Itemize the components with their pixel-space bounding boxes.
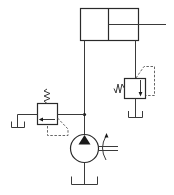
valve-body	[125, 79, 146, 99]
cylinder	[81, 9, 167, 41]
pump	[71, 133, 119, 184]
flow-arrow-icon	[39, 118, 43, 122]
flow-arrow-icon	[139, 92, 143, 97]
spring-icon	[44, 89, 50, 104]
rotation-arrow-icon	[103, 136, 107, 160]
valve-body	[38, 104, 58, 125]
pump-direction-triangle-icon	[79, 135, 91, 145]
spring-icon	[114, 84, 125, 93]
relief-valve-right	[114, 67, 155, 118]
relief-valve-left	[18, 89, 85, 136]
hydraulic-diagram	[0, 0, 174, 195]
